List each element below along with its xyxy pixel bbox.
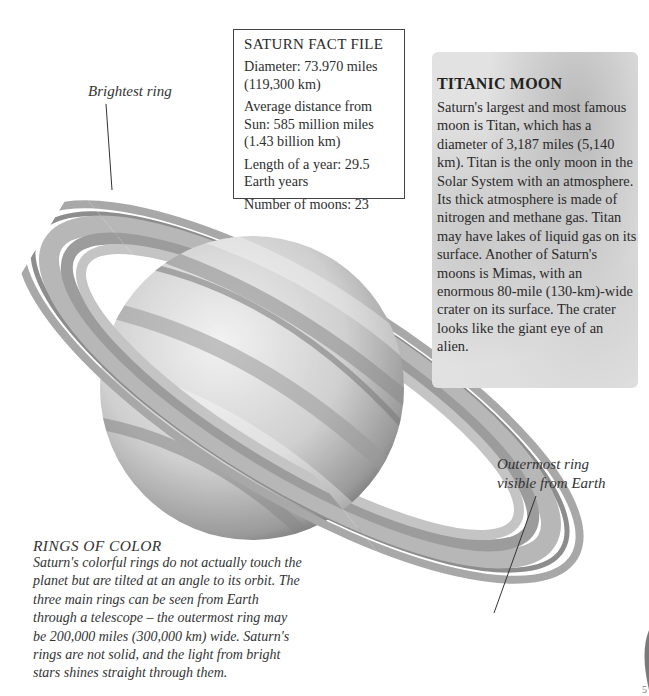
outermost-ring-label-line2: visible from Earth [497,474,606,493]
fact-year-length: Length of a year: 29.5 Earth years [244,156,396,191]
rings-of-color-title: RINGS OF COLOR [33,537,162,555]
fact-diameter: Diameter: 73.970 miles (119,300 km) [244,58,396,93]
edge-object [645,630,649,690]
brightest-ring-label: Brightest ring [88,82,172,101]
fact-distance: Average distance from Sun: 585 million m… [244,98,396,151]
outermost-ring-label-line1: Outermost ring [497,455,606,474]
titanic-moon-body: Saturn's largest and most famous moon is… [437,98,637,356]
outermost-ring-label: Outermost ring visible from Earth [497,455,606,493]
fact-moons: Number of moons: 23 [244,196,396,214]
rings-of-color-body: Saturn's colorful rings do not actually … [33,554,303,683]
brightest-ring-leader-line [106,104,112,190]
saturn-fact-file: SATURN FACT FILE Diameter: 73.970 miles … [233,29,405,199]
page-number: 5 [642,684,647,695]
fact-file-title: SATURN FACT FILE [244,36,396,53]
titanic-moon-title: TITANIC MOON [437,75,562,93]
